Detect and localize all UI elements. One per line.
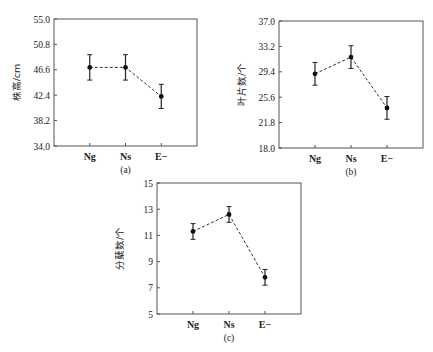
data-point (385, 105, 390, 110)
x-tick-label: Ns (223, 319, 234, 330)
series-line (193, 214, 265, 277)
y-tick-label: 33.2 (258, 42, 275, 52)
data-point (159, 94, 164, 99)
data-point (313, 71, 318, 76)
y-tick-label: 25.6 (258, 93, 275, 103)
y-axis-label: 分蘖数/个 (114, 227, 125, 270)
data-point (349, 55, 354, 60)
y-tick-label: 42.4 (33, 91, 50, 101)
y-tick-label: 37.0 (258, 17, 275, 27)
data-point (123, 65, 128, 70)
y-tick-label: 46.6 (33, 65, 50, 75)
x-tick-label: Ns (120, 151, 131, 162)
y-tick-label: 50.8 (33, 40, 50, 50)
y-tick-label: 18.0 (258, 144, 275, 154)
chart-a: 34.038.242.446.650.855.0NgNsE−(a)株高/cm (11, 15, 197, 177)
y-tick-label: 38.2 (33, 116, 50, 126)
x-tick-label: E− (381, 153, 394, 164)
y-tick-label: 5 (148, 310, 153, 320)
x-tick-label: Ng (84, 151, 96, 162)
data-point (191, 229, 196, 234)
data-point (263, 275, 268, 280)
x-tick-label: Ns (345, 153, 356, 164)
chart-b: 18.021.825.629.433.237.0NgNsE−(b)叶片数/个 (236, 17, 423, 179)
data-point (227, 212, 232, 217)
y-tick-label: 15 (144, 179, 154, 189)
y-tick-label: 55.0 (33, 15, 50, 25)
y-tick-label: 13 (144, 205, 154, 215)
y-tick-label: 29.4 (258, 67, 275, 77)
y-axis-label: 株高/cm (11, 64, 22, 102)
plot-frame (279, 21, 423, 148)
subfigure-label: (b) (345, 167, 356, 178)
y-tick-label: 21.8 (258, 118, 275, 128)
plot-frame (157, 183, 301, 314)
figure-canvas: 34.038.242.446.650.855.0NgNsE−(a)株高/cm18… (0, 0, 433, 352)
y-tick-label: 11 (144, 231, 153, 241)
x-tick-label: Ng (187, 319, 199, 330)
subfigure-label: (c) (224, 333, 235, 344)
y-tick-label: 34.0 (33, 142, 50, 152)
y-tick-label: 7 (148, 283, 153, 293)
data-point (87, 65, 92, 70)
y-axis-label: 叶片数/个 (236, 63, 247, 106)
chart-c: 579111315NgNsE−(c)分蘖数/个 (114, 179, 301, 345)
x-tick-label: E− (259, 319, 272, 330)
subfigure-label: (a) (120, 165, 131, 176)
x-tick-label: E− (155, 151, 168, 162)
plot-frame (54, 19, 197, 146)
y-tick-label: 9 (148, 257, 153, 267)
x-tick-label: Ng (309, 153, 321, 164)
